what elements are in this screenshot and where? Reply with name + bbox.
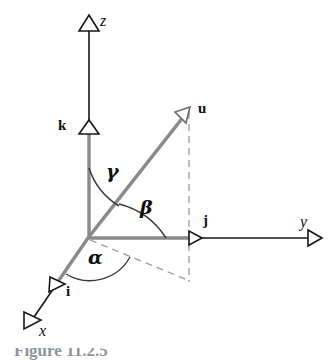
u-vector-arrowhead <box>175 107 190 123</box>
k-vector-label: k <box>58 118 66 133</box>
x-axis-label: x <box>39 323 46 339</box>
beta-angle-label: β <box>140 198 153 217</box>
i-vector-line <box>57 238 88 283</box>
alpha-angle-label: α <box>88 248 103 267</box>
u-projection-base-dashed-line <box>90 240 190 281</box>
y-axis-arrowhead <box>308 230 322 246</box>
figure-caption-strip: Figure 11.2.5 <box>0 348 334 360</box>
figure-caption: Figure 11.2.5 <box>14 348 108 360</box>
gamma-angle-label: γ <box>106 162 119 181</box>
diagram-canvas <box>0 0 334 360</box>
i-vector-arrowhead <box>49 277 65 292</box>
k-vector-arrowhead <box>79 120 99 134</box>
u-vector-label: u <box>198 101 206 116</box>
z-axis-arrowhead <box>79 15 99 31</box>
vector-direction-angles-figure: z y x k j i u α β γ Figure 11.2.5 <box>0 0 334 360</box>
i-vector-label: i <box>66 284 70 299</box>
z-axis-label: z <box>100 13 106 29</box>
y-axis-label: y <box>300 214 307 230</box>
u-vector-line <box>88 116 184 238</box>
j-vector-arrowhead <box>189 231 202 245</box>
j-vector-label: j <box>203 213 208 228</box>
